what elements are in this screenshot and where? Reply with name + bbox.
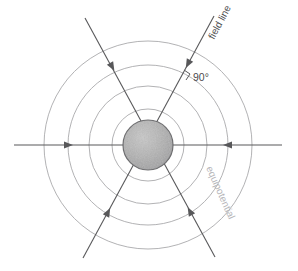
field-line-label: field line	[206, 3, 233, 41]
diagram-labels: field line 90° equipotential	[193, 3, 237, 221]
arrowhead-left-horizontal	[64, 141, 73, 148]
arrowhead-upper-right-diagonal	[183, 58, 194, 69]
equipotential-label: equipotential	[204, 164, 237, 220]
charged-sphere	[123, 120, 173, 170]
arrowhead-right-horizontal	[223, 141, 232, 148]
field-equipotential-diagram: field line 90° equipotential	[0, 0, 298, 271]
diagram-canvas: field line 90° equipotential	[0, 0, 298, 271]
angle-label: 90°	[193, 71, 209, 83]
arrowhead-upper-left-diagonal	[107, 61, 118, 72]
